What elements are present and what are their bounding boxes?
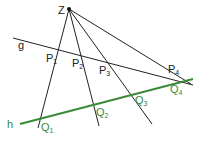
label-z: Z — [58, 4, 65, 16]
label-q4: Q4 — [170, 83, 183, 96]
label-q3: Q3 — [135, 94, 148, 107]
ray-1 — [38, 9, 69, 128]
label-p3: P3 — [99, 64, 110, 77]
label-h: h — [7, 118, 13, 130]
label-p4: P4 — [168, 63, 179, 76]
line-g — [13, 38, 193, 85]
center-point-z — [67, 7, 71, 11]
label-q1: Q1 — [41, 121, 54, 134]
label-p1: P1 — [46, 52, 57, 65]
perspectivity-diagram: Z g h P1 P2 P3 P4 Q1 Q2 Q3 Q4 — [0, 0, 205, 144]
label-q2: Q2 — [96, 106, 109, 119]
label-g: g — [18, 39, 24, 51]
